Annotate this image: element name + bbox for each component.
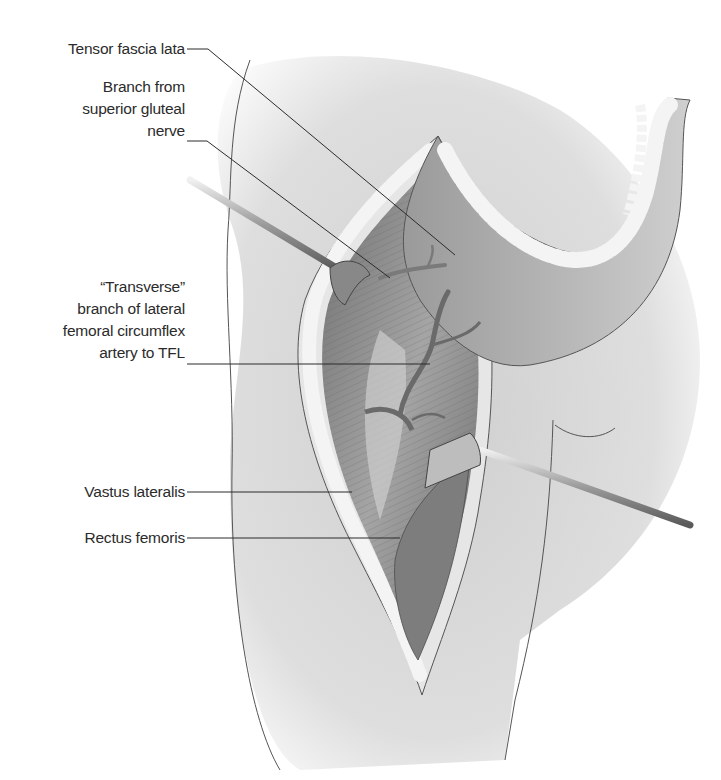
- label-branch-superior-gluteal-nerve: Branch from superior gluteal nerve: [82, 76, 185, 142]
- label-vastus-lateralis: Vastus lateralis: [84, 481, 185, 503]
- label-rectus-femoris: Rectus femoris: [84, 527, 185, 549]
- label-transverse-branch-lfca: “Transverse” branch of lateral femoral c…: [63, 276, 185, 364]
- label-tensor-fascia-lata: Tensor fascia lata: [68, 38, 185, 60]
